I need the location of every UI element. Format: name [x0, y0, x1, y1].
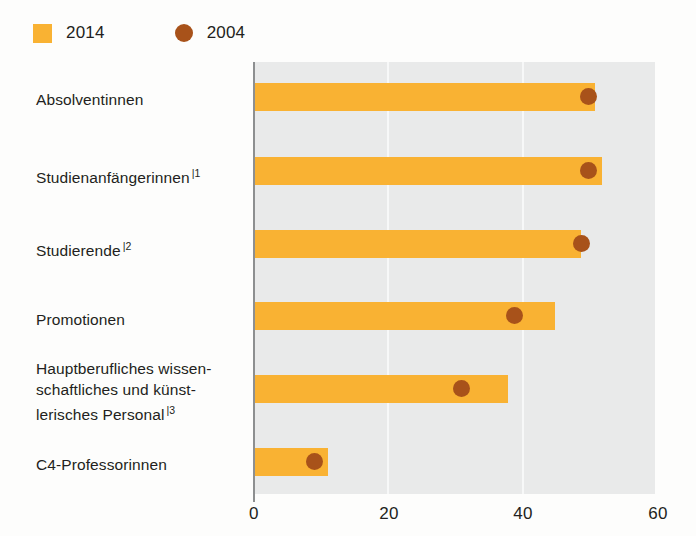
category-label-wissenschaftliches-personal: Hauptberufliches wissen- schaftliches un…: [36, 358, 246, 425]
category-label-c4-professorinnen: C4-Professorinnen: [36, 454, 246, 475]
dot-studierende: [573, 235, 590, 252]
dot-wissenschaftliches-personal: [453, 380, 470, 397]
gridline-40: [522, 62, 524, 494]
category-label-studierende: Studierende|2: [36, 236, 246, 261]
category-text-line-3: lerisches Personal|3: [36, 400, 246, 425]
plot-area: [254, 62, 655, 494]
category-text-line-1: Hauptberufliches wissen-: [36, 358, 246, 379]
category-text-line-3-text: lerisches Personal: [36, 406, 164, 423]
footnote-marker: |3: [166, 404, 175, 416]
dot-absolventinnen: [580, 88, 597, 105]
legend-entry-2004: 2004: [175, 23, 246, 43]
dot-c4-professorinnen: [306, 453, 323, 470]
legend-entry-2014: 2014: [33, 23, 105, 43]
category-label-absolventinnen: Absolventinnen: [36, 89, 246, 110]
x-tick-40: 40: [513, 504, 533, 524]
bar-studierende: [254, 230, 581, 258]
category-label-promotionen: Promotionen: [36, 309, 246, 330]
x-tick-20: 20: [379, 504, 399, 524]
bar-wissenschaftliches-personal: [254, 375, 508, 403]
legend-label-2014: 2014: [66, 23, 105, 43]
x-tick-0: 0: [249, 504, 259, 524]
square-swatch-icon: [33, 24, 52, 43]
category-text: Promotionen: [36, 311, 125, 328]
gridline-20: [387, 62, 389, 494]
category-text: Studierende: [36, 242, 121, 259]
bar-chart: 2014 2004 Absolventinnen Studienanfänger…: [0, 0, 696, 536]
footnote-marker: |1: [192, 167, 201, 179]
dot-studienanfaengerinnen: [580, 162, 597, 179]
dot-promotionen: [506, 307, 523, 324]
bar-studienanfaengerinnen: [254, 157, 602, 185]
category-label-studienanfaengerinnen: Studienanfängerinnen|1: [36, 163, 246, 188]
category-text-line-2: schaftliches und künst-: [36, 379, 246, 400]
category-text: C4-Professorinnen: [36, 456, 167, 473]
x-tick-60: 60: [648, 504, 668, 524]
category-text: Absolventinnen: [36, 91, 143, 108]
category-text: Studienanfängerinnen: [36, 169, 190, 186]
legend-label-2004: 2004: [207, 23, 246, 43]
bar-absolventinnen: [254, 83, 595, 111]
y-axis-line: [253, 62, 255, 502]
chart-legend: 2014 2004: [33, 20, 315, 46]
circle-swatch-icon: [175, 24, 193, 42]
footnote-marker: |2: [123, 240, 132, 252]
